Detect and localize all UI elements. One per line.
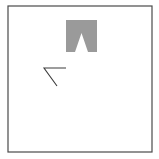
drawing-canvas bbox=[0, 0, 159, 159]
figure-svg bbox=[0, 0, 159, 159]
